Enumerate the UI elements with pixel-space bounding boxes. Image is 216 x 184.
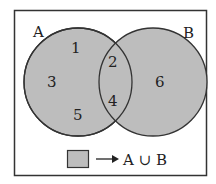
element-3: 3 bbox=[47, 73, 57, 91]
element-4: 4 bbox=[108, 92, 118, 110]
element-5: 5 bbox=[73, 106, 83, 124]
circle-b bbox=[99, 28, 207, 136]
venn-diagram: A B 1 3 5 2 4 6 A ∪ B bbox=[0, 0, 216, 184]
set-a-label: A bbox=[32, 23, 44, 41]
element-1: 1 bbox=[71, 39, 81, 57]
element-6: 6 bbox=[155, 73, 165, 91]
set-b-label: B bbox=[183, 24, 194, 42]
legend-swatch bbox=[68, 151, 89, 168]
element-2: 2 bbox=[108, 53, 118, 71]
legend-text: A ∪ B bbox=[122, 151, 167, 169]
